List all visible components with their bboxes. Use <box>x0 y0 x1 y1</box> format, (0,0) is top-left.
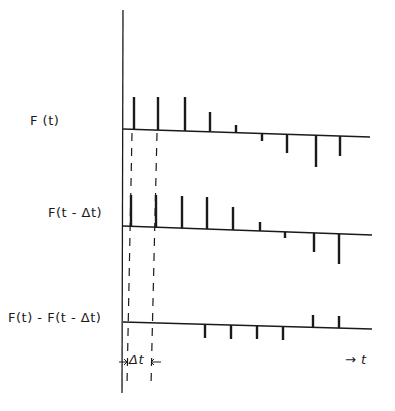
row-baseline <box>123 226 372 235</box>
signal-row <box>123 315 372 340</box>
row-baseline <box>123 322 372 329</box>
row-label-f-t-minus-dt: F(t - Δt) <box>48 205 102 220</box>
signal-row <box>123 97 370 167</box>
signal-rows <box>123 97 372 340</box>
time-axis-label: → t <box>345 352 367 367</box>
dashed-guide-line <box>127 133 132 385</box>
row-label-f-t: F (t) <box>30 113 59 128</box>
signal-row <box>123 195 372 264</box>
dashed-guide-line <box>151 133 157 385</box>
vertical-axis-line <box>122 10 123 393</box>
vertical-axis <box>122 10 123 393</box>
row-baseline <box>123 129 370 137</box>
row-label-difference: F(t) - F(t - Δt) <box>8 310 101 325</box>
delta-t-guide-lines <box>127 133 157 385</box>
delta-t-label: Δt <box>129 352 144 367</box>
